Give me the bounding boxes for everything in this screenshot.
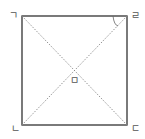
angle-arc	[113, 16, 118, 26]
center-label: ㅁ	[70, 75, 79, 86]
vertex-label-bottom-left: ㄴ	[11, 123, 20, 134]
vertex-label-top-left: ㄱ	[9, 10, 18, 21]
square-diagonals-diagram: ㄱ ㄹ ㄴ ㄷ ㅁ	[0, 0, 145, 139]
vertex-label-bottom-right: ㄷ	[131, 123, 140, 134]
vertex-label-top-right: ㄹ	[131, 10, 140, 21]
